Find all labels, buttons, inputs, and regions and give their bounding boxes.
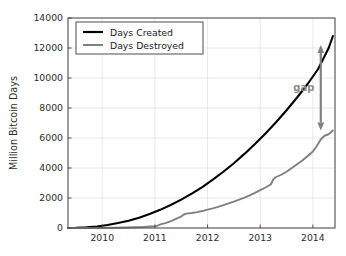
legend-label-days-destroyed: Days Destroyed (110, 40, 184, 51)
y-tick-label: 4000 (39, 162, 63, 173)
chart-svg: gap 02000400060008000100001200014000 201… (0, 0, 346, 256)
y-tick-label: 12000 (33, 42, 63, 53)
x-tick-label: 2010 (90, 232, 114, 243)
y-tick-label: 2000 (39, 192, 63, 203)
chart-legend: Days Created Days Destroyed (76, 22, 203, 54)
y-tick-label: 8000 (39, 102, 63, 113)
y-axis-label: Million Bitcoin Days (8, 76, 19, 170)
x-tick-label: 2014 (301, 232, 325, 243)
y-tick-label: 10000 (33, 72, 63, 83)
y-tick-label: 14000 (33, 12, 63, 23)
x-tick-label: 2012 (196, 232, 220, 243)
y-tick-label: 0 (57, 222, 63, 233)
gap-label: gap (293, 82, 314, 93)
x-tick-label: 2011 (143, 232, 167, 243)
chart-figure: gap 02000400060008000100001200014000 201… (0, 0, 346, 256)
legend-label-days-created: Days Created (110, 27, 173, 38)
y-tick-label: 6000 (39, 132, 63, 143)
x-tick-label: 2013 (248, 232, 272, 243)
